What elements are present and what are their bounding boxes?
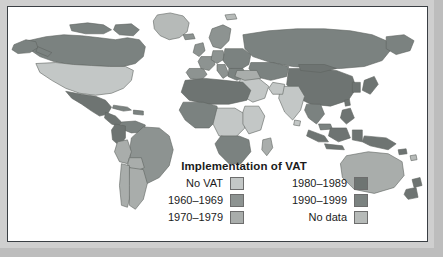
region-korea (352, 82, 360, 92)
region-pakistan (269, 82, 285, 94)
region-java (324, 144, 344, 150)
region-uk-ireland (193, 43, 205, 57)
region-central-africa (213, 108, 245, 138)
legend-swatch-1990-1999 (354, 194, 368, 207)
legend-label-1970-1979: 1970–1979 (168, 212, 223, 223)
region-hispaniola (133, 110, 143, 115)
legend-label-1960-1969: 1960–1969 (168, 195, 223, 206)
region-mexico (66, 91, 112, 116)
region-new-guinea (362, 136, 396, 150)
region-svalbard (225, 14, 237, 20)
region-cuba (113, 105, 132, 111)
region-new-zealand-south (404, 187, 418, 199)
legend-entry-no-data: No data (244, 211, 368, 224)
region-borneo (328, 128, 350, 142)
legend-label-1980-1989: 1980–1989 (292, 178, 347, 189)
mat-shadow-right (434, 0, 443, 257)
legend-swatch-no-vat (230, 177, 244, 190)
legend-swatch-1980-1989 (354, 177, 368, 190)
region-madagascar (262, 138, 273, 156)
region-morocco-algeria-libya-egypt (181, 78, 251, 104)
region-east-africa (243, 106, 265, 134)
legend-swatch-1970-1979 (230, 211, 244, 224)
map-legend: Implementation of VAT No VAT 1960–1969 1… (120, 160, 368, 224)
region-canada-arctic-islands (70, 23, 112, 34)
region-taiwan (344, 99, 350, 106)
region-japan (362, 76, 378, 94)
legend-title: Implementation of VAT (120, 160, 368, 172)
region-sumatra (307, 130, 329, 142)
legend-label-no-vat: No VAT (186, 178, 223, 189)
region-eastern-europe (223, 49, 251, 71)
legend-swatch-1960-1969 (230, 194, 244, 207)
legend-swatch-no-data (354, 211, 368, 224)
legend-entry-no-vat: No VAT (120, 177, 244, 190)
region-pacific-islands (410, 155, 417, 161)
mat-shadow-bottom (0, 248, 443, 257)
legend-entry-1980-1989: 1980–1989 (244, 177, 368, 190)
legend-entry-1970-1979: 1970–1979 (120, 211, 244, 224)
region-united-states (36, 63, 134, 96)
region-sri-lanka (294, 120, 301, 126)
region-russia-far-east (386, 35, 414, 55)
legend-entry-1960-1969: 1960–1969 (120, 194, 244, 207)
map-frame: Implementation of VAT No VAT 1960–1969 1… (7, 6, 428, 242)
legend-entry-1990-1999: 1990–1999 (244, 194, 368, 207)
region-baffin (113, 24, 139, 36)
region-new-zealand-north (412, 178, 422, 188)
region-philippines (340, 108, 354, 124)
region-indochina (305, 104, 325, 124)
legend-label-1990-1999: 1990–1999 (292, 195, 347, 206)
region-sulawesi (352, 130, 362, 142)
region-iceland (183, 34, 195, 40)
legend-column-left: No VAT 1960–1969 1970–1979 (120, 177, 244, 224)
region-scandinavia (209, 25, 231, 49)
vat-map-figure: Implementation of VAT No VAT 1960–1969 1… (0, 0, 443, 257)
legend-rows: No VAT 1960–1969 1970–1979 1980–1989 (120, 177, 368, 224)
region-papua-islands (398, 149, 407, 155)
legend-column-right: 1980–1989 1990–1999 No data (244, 177, 368, 224)
legend-label-no-data: No data (308, 212, 347, 223)
